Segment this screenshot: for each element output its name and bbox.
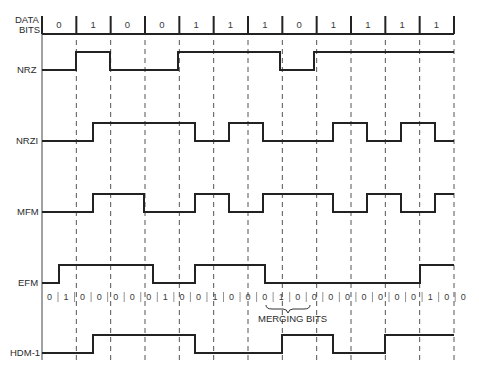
- efm-channel-bit: 0: [312, 292, 317, 302]
- efm-channel-bit: 0: [361, 292, 366, 302]
- signal-label-nrz: NRZ: [17, 64, 37, 75]
- efm-channel-bit: 0: [113, 292, 118, 302]
- efm-channel-bit: 0: [229, 292, 234, 302]
- efm-channel-bit: 0: [97, 292, 102, 302]
- efm-channel-bit: 0: [411, 292, 416, 302]
- data-bit-value: 1: [400, 19, 405, 30]
- signal-label-mfm: MFM: [17, 206, 39, 217]
- efm-channel-bit: 0: [130, 292, 135, 302]
- efm-channel-bit: 1: [279, 292, 284, 302]
- efm-channel-bit: 0: [80, 292, 85, 302]
- data-bits-header: 010011101111: [42, 16, 454, 34]
- encoding-waveform-diagram: DATA BITS 010011101111 NRZ NRZI MFM EFM …: [0, 0, 479, 370]
- data-bit-value: 0: [125, 19, 130, 30]
- merging-bits-label: MERGING BITS: [258, 313, 327, 324]
- efm-channel-bit: 0: [395, 292, 400, 302]
- efm-channel-bit: 0: [146, 292, 151, 302]
- signal-label-nrzi: NRZI: [16, 135, 38, 146]
- efm-channel-bit: 0: [328, 292, 333, 302]
- efm-channel-bit: 0: [262, 292, 267, 302]
- data-bit-value: 1: [434, 19, 439, 30]
- efm-channel-bits-row: 01000001001000100000000100: [47, 292, 466, 302]
- data-bit-value: 1: [194, 19, 199, 30]
- efm-channel-bit: 0: [246, 292, 251, 302]
- efm-channel-bit: 0: [345, 292, 350, 302]
- efm-channel-bit: 0: [179, 292, 184, 302]
- efm-channel-bit: 0: [196, 292, 201, 302]
- data-bit-value: 0: [56, 19, 61, 30]
- data-bit-value: 1: [331, 19, 336, 30]
- data-bit-value: 1: [91, 19, 96, 30]
- efm-channel-bit: 1: [64, 292, 69, 302]
- efm-channel-bit: 0: [47, 292, 52, 302]
- data-bit-value: 1: [365, 19, 370, 30]
- data-bits-label-line2: BITS: [19, 24, 40, 35]
- efm-channel-bit: 0: [461, 292, 466, 302]
- merging-bits-brace: [266, 305, 310, 313]
- signal-label-efm: EFM: [18, 277, 38, 288]
- efm-channel-bit: 0: [295, 292, 300, 302]
- efm-channel-bit: 1: [428, 292, 433, 302]
- data-bit-value: 0: [159, 19, 164, 30]
- data-bit-value: 0: [297, 19, 302, 30]
- data-bit-value: 1: [262, 19, 267, 30]
- data-bit-value: 1: [228, 19, 233, 30]
- efm-channel-bit: 0: [378, 292, 383, 302]
- efm-channel-bit: 0: [444, 292, 449, 302]
- signal-label-hdm1: HDM-1: [10, 347, 40, 358]
- efm-channel-bit: 1: [163, 292, 168, 302]
- efm-channel-bit: 1: [213, 292, 218, 302]
